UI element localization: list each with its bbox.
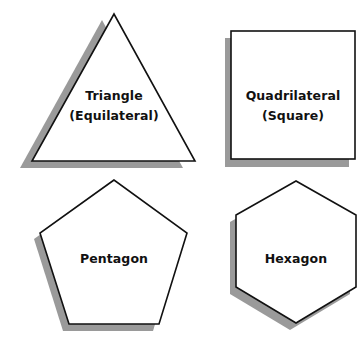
pentagon-label: Pentagon bbox=[80, 249, 148, 269]
hexagon-label-line1: Hexagon bbox=[265, 249, 328, 269]
pentagon-label-line1: Pentagon bbox=[80, 249, 148, 269]
triangle-label-line1: Triangle bbox=[69, 86, 158, 106]
triangle-label: Triangle (Equilateral) bbox=[69, 86, 158, 126]
shapes-canvas bbox=[0, 0, 363, 339]
square-label: Quadrilateral (Square) bbox=[246, 86, 341, 126]
shapes-diagram: Triangle (Equilateral) Quadrilateral (Sq… bbox=[0, 0, 363, 339]
triangle-label-line2: (Equilateral) bbox=[69, 106, 158, 126]
hexagon-label: Hexagon bbox=[265, 249, 328, 269]
square-label-line1: Quadrilateral bbox=[246, 86, 341, 106]
square-label-line2: (Square) bbox=[246, 106, 341, 126]
